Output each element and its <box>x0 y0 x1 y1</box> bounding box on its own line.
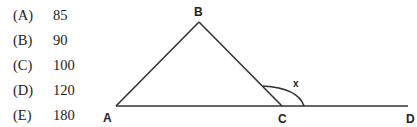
angle-x-arc <box>263 86 304 106</box>
segment-ab <box>116 22 199 106</box>
point-c-label: C <box>278 112 287 126</box>
triangle-diagram: A B C D x <box>0 0 417 127</box>
point-a-label: A <box>103 111 112 125</box>
point-b-label: B <box>194 5 203 19</box>
point-d-label: D <box>406 112 415 126</box>
angle-x-label: x <box>293 78 299 89</box>
segment-bc <box>199 22 282 106</box>
